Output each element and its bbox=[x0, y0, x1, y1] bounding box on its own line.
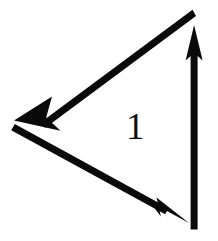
figure-canvas: 1 bbox=[0, 0, 218, 241]
arrow-bottom-diagonal-shaft bbox=[11, 124, 169, 214]
arrow-right-vertical bbox=[186, 25, 203, 230]
arrow-right-vertical-shaft bbox=[191, 52, 198, 230]
vector-triangle-diagram bbox=[0, 0, 218, 241]
vector-magnitude-label: 1 bbox=[126, 108, 145, 145]
arrow-top-diagonal bbox=[14, 10, 196, 131]
arrow-top-diagonal-shaft bbox=[42, 10, 196, 128]
arrow-bottom-diagonal bbox=[11, 124, 189, 223]
